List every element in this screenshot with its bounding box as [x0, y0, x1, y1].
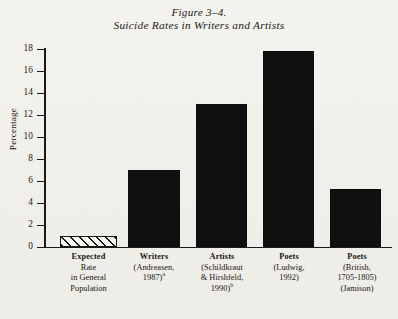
footnote-marker: a — [162, 271, 165, 277]
y-tick-label: 14 — [7, 88, 33, 97]
y-tick-label: 0 — [7, 242, 33, 251]
x-label-lead: Artists — [187, 252, 257, 263]
bar-4 — [330, 189, 381, 247]
x-label-line: 1990)b — [187, 284, 257, 295]
x-axis-label-3: Poets(Ludwig,1992) — [254, 252, 324, 284]
y-tick-label: 10 — [7, 132, 33, 141]
y-tick-mark — [37, 225, 44, 226]
y-tick-mark — [37, 71, 44, 72]
x-label-line: 1992) — [254, 273, 324, 284]
y-tick-label: 12 — [7, 110, 33, 119]
bar-3 — [263, 51, 314, 247]
y-tick-mark — [37, 203, 44, 204]
bar-2 — [196, 104, 247, 247]
x-label-line: (Andreasen, — [119, 263, 189, 274]
y-tick-mark — [37, 137, 44, 138]
y-tick-label: 2 — [7, 220, 33, 229]
y-tick-label: 16 — [7, 66, 33, 75]
bar-1 — [128, 170, 180, 247]
x-label-line: Population — [51, 284, 126, 295]
x-axis-label-1: Writers(Andreasen,1987)a — [119, 252, 189, 284]
x-label-line: in General — [51, 273, 126, 284]
x-label-lead: Poets — [254, 252, 324, 263]
y-tick-mark — [37, 49, 44, 50]
x-label-line: (British, — [321, 263, 393, 274]
y-tick-mark — [37, 181, 44, 182]
bar-chart-plot: Percentage 024681012141618 ExpectedRatei… — [0, 0, 398, 319]
x-label-line: & Hirshfeld, — [187, 273, 257, 284]
x-axis-label-2: Artists(Schildkraut& Hirshfeld,1990)b — [187, 252, 257, 294]
y-tick-label: 8 — [7, 154, 33, 163]
x-label-line: Rate — [51, 263, 126, 274]
x-label-line: 1705-1805) — [321, 273, 393, 284]
y-tick-mark — [37, 247, 44, 248]
y-tick-mark — [37, 159, 44, 160]
x-axis-label-4: Poets(British,1705-1805)(Jamison) — [321, 252, 393, 294]
x-label-lead: Poets — [321, 252, 393, 263]
x-label-lead: Expected — [51, 252, 126, 263]
y-axis-line — [44, 48, 46, 248]
y-tick-label: 6 — [7, 176, 33, 185]
figure-container: Figure 3–4. Suicide Rates in Writers and… — [0, 0, 398, 319]
bar-0 — [60, 236, 117, 247]
y-tick-mark — [37, 115, 44, 116]
x-label-line: (Ludwig, — [254, 263, 324, 274]
x-label-line: (Jamison) — [321, 284, 393, 295]
x-axis-label-0: ExpectedRatein GeneralPopulation — [51, 252, 126, 294]
y-tick-label: 18 — [7, 44, 33, 53]
y-tick-mark — [37, 93, 44, 94]
footnote-marker: b — [230, 282, 233, 288]
x-label-line: 1987)a — [119, 273, 189, 284]
y-tick-label: 4 — [7, 198, 33, 207]
x-label-line: (Schildkraut — [187, 263, 257, 274]
x-label-lead: Writers — [119, 252, 189, 263]
